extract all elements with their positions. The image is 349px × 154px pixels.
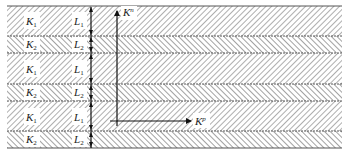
layer-k1-2 bbox=[7, 53, 342, 84]
layer-k2-2 bbox=[7, 84, 342, 101]
layer-k2-1 bbox=[7, 36, 342, 53]
layer-k1-3 bbox=[7, 101, 342, 131]
layered-strata-diagram: K1 K2 K1 K2 K1 K2 L1 L2 L1 L2 L1 L2 Kn K… bbox=[0, 0, 349, 154]
layer-k1-1 bbox=[7, 6, 342, 36]
layer-stack bbox=[7, 6, 342, 148]
layer-k2-3 bbox=[7, 131, 342, 148]
